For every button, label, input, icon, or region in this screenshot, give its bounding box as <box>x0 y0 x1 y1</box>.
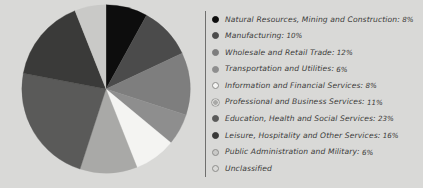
legend-item[interactable]: Natural Resources, Mining and Constructi… <box>212 11 423 28</box>
legend-item[interactable]: Transportation and Utilities: 6% <box>212 61 423 78</box>
legend-item-value: 8% <box>363 81 377 90</box>
legend-marker-icon <box>212 165 219 172</box>
chart-legend: Natural Resources, Mining and Constructi… <box>212 11 423 183</box>
legend-item-value: 23% <box>376 114 394 123</box>
legend-marker-icon <box>212 99 219 106</box>
legend-marker-icon <box>212 82 219 89</box>
legend-item-label: Information and Financial Services: <box>225 82 363 90</box>
legend-item[interactable]: Professional and Business Services: 11% <box>212 94 423 111</box>
legend-item-value: 11% <box>365 98 383 107</box>
legend-marker-icon <box>212 49 219 56</box>
legend-divider <box>205 11 206 177</box>
legend-item-label: Education, Health and Social Services: <box>225 115 376 123</box>
legend-marker-icon <box>212 16 219 23</box>
legend-item-value: 6% <box>360 148 374 157</box>
legend-item-value: 8% <box>400 15 414 24</box>
legend-item-label: Public Administration and Military: <box>225 148 360 156</box>
legend-item[interactable]: Unclassified <box>212 160 423 177</box>
legend-item[interactable]: Manufacturing: 10% <box>212 28 423 45</box>
legend-item[interactable]: Leisure, Hospitality and Other Services:… <box>212 127 423 144</box>
legend-item-label: Professional and Business Services: <box>225 98 365 106</box>
legend-marker-icon <box>212 132 219 139</box>
legend-item-value: 16% <box>380 131 398 140</box>
legend-item[interactable]: Public Administration and Military: 6% <box>212 144 423 161</box>
legend-item-label: Leisure, Hospitality and Other Services: <box>225 132 380 140</box>
legend-item-label: Natural Resources, Mining and Constructi… <box>225 16 400 24</box>
legend-marker-icon <box>212 149 219 156</box>
legend-item[interactable]: Information and Financial Services: 8% <box>212 77 423 94</box>
pie-chart-figure: Natural Resources, Mining and Constructi… <box>0 0 423 188</box>
legend-marker-icon <box>212 115 219 122</box>
legend-item-label: Wholesale and Retail Trade: <box>225 49 335 57</box>
legend-item[interactable]: Education, Health and Social Services: 2… <box>212 111 423 128</box>
pie-chart-svg <box>21 3 191 175</box>
legend-item-value: 10% <box>284 31 302 40</box>
pie-chart-panel <box>0 0 205 188</box>
legend-item-value: 6% <box>334 65 348 74</box>
legend-marker-icon <box>212 66 219 73</box>
legend-item-label: Unclassified <box>225 165 272 173</box>
legend-item[interactable]: Wholesale and Retail Trade: 12% <box>212 44 423 61</box>
legend-item-value: 12% <box>335 48 353 57</box>
legend-item-label: Transportation and Utilities: <box>225 65 334 73</box>
legend-item-label: Manufacturing: <box>225 32 284 40</box>
legend-marker-icon <box>212 32 219 39</box>
